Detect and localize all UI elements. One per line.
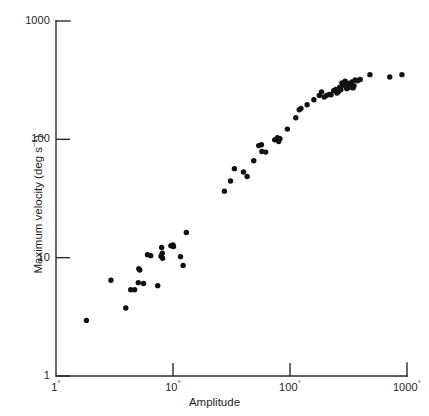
data-point: [298, 106, 303, 111]
data-point: [263, 149, 268, 154]
degree-icon: °: [57, 379, 60, 388]
data-point: [171, 244, 176, 249]
degree-icon: °: [298, 379, 301, 388]
data-point: [155, 283, 160, 288]
data-point: [159, 245, 164, 250]
data-point: [184, 230, 189, 235]
data-point: [367, 72, 372, 77]
data-points-group: [84, 72, 405, 323]
y-tick-label: 1: [8, 369, 50, 381]
x-axis-title: Amplitude: [0, 396, 429, 408]
data-point: [311, 97, 316, 102]
data-point: [84, 318, 89, 323]
y-axis-title-tail: ): [32, 135, 44, 139]
x-tick-label: 1°: [26, 381, 86, 393]
data-point: [293, 115, 298, 120]
data-point: [244, 174, 249, 179]
x-tick-label-value: 1000: [393, 381, 418, 393]
x-tick-label-value: 100: [279, 381, 298, 393]
plot-canvas: [0, 0, 429, 416]
x-tick-label: 1000°: [377, 381, 429, 393]
data-point: [148, 253, 153, 258]
data-point: [304, 102, 309, 107]
y-axis-title-exponent: −1: [30, 138, 39, 147]
data-point: [357, 77, 362, 82]
degree-icon: °: [178, 379, 181, 388]
data-point: [137, 267, 142, 272]
y-tick-label: 1000: [8, 14, 50, 26]
data-point: [222, 188, 227, 193]
data-point: [141, 281, 146, 286]
data-point: [228, 178, 233, 183]
data-point: [160, 255, 165, 260]
data-point: [251, 158, 256, 163]
data-point: [277, 136, 282, 141]
y-axis-title: Maximum velocity (deg s−1): [32, 104, 44, 304]
data-point: [136, 280, 141, 285]
data-point: [178, 254, 183, 259]
x-tick-label-value: 10: [165, 381, 177, 393]
data-point: [387, 74, 392, 79]
y-axis-title-main: Maximum velocity (deg s: [32, 147, 44, 274]
data-point: [351, 83, 356, 88]
data-point: [319, 89, 324, 94]
data-point: [338, 87, 343, 92]
data-point: [259, 142, 264, 147]
x-tick-label: 10°: [143, 381, 203, 393]
data-point: [232, 166, 237, 171]
data-point: [241, 169, 246, 174]
data-point: [180, 263, 185, 268]
tick-marks-group: [56, 139, 290, 376]
scatter-plot-figure: 1000100101 1°10°100°1000° Maximum veloci…: [0, 0, 429, 416]
data-point: [108, 278, 113, 283]
data-point: [399, 72, 404, 77]
data-point: [160, 251, 165, 256]
data-point: [132, 287, 137, 292]
x-tick-label: 100°: [260, 381, 320, 393]
degree-icon: °: [418, 379, 421, 388]
axes-group: [56, 21, 407, 376]
data-point: [285, 126, 290, 131]
data-point: [123, 305, 128, 310]
